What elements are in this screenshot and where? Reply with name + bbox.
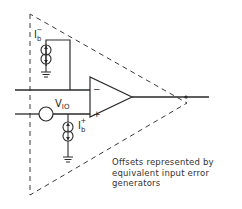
- ib-plus-label: Ib+: [78, 117, 86, 134]
- caption-line: generators: [112, 178, 214, 189]
- caption-line: Offsets represented by: [112, 157, 214, 168]
- ib-plus-current-source-icon: [63, 122, 73, 141]
- ground-icon: [63, 157, 73, 162]
- inverting-input-label: −: [93, 84, 101, 94]
- ib-minus-label: Ib−: [34, 26, 42, 43]
- ground-icon: [41, 72, 51, 77]
- vio-voltage-source-icon: [39, 107, 53, 121]
- ib-minus-branch-wire: [46, 40, 70, 90]
- noninverting-input-label: +: [93, 109, 101, 119]
- vio-label: VIO: [55, 98, 70, 111]
- ib-minus-current-source-icon: [41, 45, 51, 64]
- caption: Offsets represented by equivalent input …: [112, 157, 214, 189]
- output-node: [184, 95, 187, 98]
- caption-line: equivalent input error: [112, 168, 214, 179]
